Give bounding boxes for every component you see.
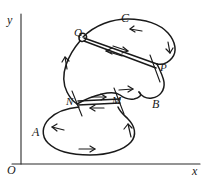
y-axis-label: y <box>7 14 12 26</box>
region-label-a: A <box>32 126 39 138</box>
arrow-a-bottom <box>79 146 95 152</box>
origin-label: O <box>7 164 16 176</box>
arrow-b-right <box>119 86 133 92</box>
point-label-m: M <box>112 95 121 106</box>
figure-svg: .ink{fill:none;stroke:#1a1a1a;stroke-lin… <box>0 0 209 188</box>
cut-qp <box>84 38 157 68</box>
point-label-p: P <box>160 62 167 73</box>
arrow-c-right <box>166 42 173 53</box>
region-label-c: C <box>121 12 129 24</box>
x-axis-label: x <box>192 165 197 177</box>
tick-mark-n <box>72 91 82 116</box>
arrow-c-top <box>130 26 142 32</box>
arrow-a-right <box>124 124 132 137</box>
diagram-canvas: .ink{fill:none;stroke:#1a1a1a;stroke-lin… <box>0 0 209 188</box>
cut-qp-line-lower <box>84 41 156 68</box>
cut-qp-line-upper <box>84 38 157 64</box>
arrow-a-left <box>52 124 64 131</box>
arrow-nm-left <box>90 105 104 111</box>
point-label-n: N <box>66 96 73 107</box>
point-label-q: Q <box>74 27 82 38</box>
axes-group <box>12 14 200 164</box>
region-label-b: B <box>152 98 159 110</box>
